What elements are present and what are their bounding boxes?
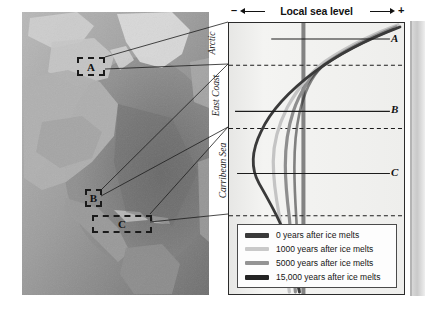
- chart-label-c: C: [391, 166, 398, 178]
- legend-swatch-2: [245, 261, 269, 265]
- region-label-east-coast: East Coast: [196, 64, 228, 127]
- chart-legend: 0 years after ice melts 1000 years after…: [237, 224, 397, 288]
- map-box-a-label: A: [87, 61, 95, 73]
- figure-root: A B C Arctic East Coast Car: [0, 0, 425, 309]
- legend-swatch-0: [245, 233, 269, 238]
- region-label-strip: Arctic East Coast Carribean Sea: [196, 22, 228, 295]
- page-edge-panel: [412, 21, 425, 296]
- chart-label-a: A: [391, 32, 398, 44]
- reference-map: A B C: [22, 12, 209, 295]
- legend-label-1: 1000 years after ice melts: [276, 244, 373, 254]
- region-label-carribean-sea: Carribean Sea: [196, 127, 228, 214]
- legend-item-2: 5000 years after ice melts: [242, 256, 392, 270]
- legend-label-2: 5000 years after ice melts: [276, 258, 373, 268]
- map-box-c-label: C: [118, 218, 126, 230]
- map-box-c: C: [92, 215, 152, 233]
- axis-arrow-right-head: [390, 8, 395, 14]
- region-label-arctic: Arctic: [196, 22, 228, 64]
- chart-label-b: B: [391, 103, 398, 115]
- map-box-b-label: B: [90, 192, 97, 204]
- legend-swatch-1: [245, 247, 269, 251]
- map-box-b: B: [85, 189, 102, 207]
- legend-item-0: 0 years after ice melts: [242, 228, 392, 242]
- map-image: [22, 12, 209, 295]
- legend-item-3: 15,000 years after ice melts: [242, 270, 392, 284]
- legend-label-3: 15,000 years after ice melts: [276, 272, 380, 282]
- legend-swatch-3: [245, 275, 269, 280]
- axis-title: Local sea level: [280, 5, 353, 17]
- legend-item-1: 1000 years after ice melts: [242, 242, 392, 256]
- axis-arrow-right: [370, 11, 392, 12]
- axis-sign-positive: +: [398, 4, 404, 16]
- legend-label-0: 0 years after ice melts: [276, 230, 359, 240]
- map-box-a: A: [77, 57, 105, 76]
